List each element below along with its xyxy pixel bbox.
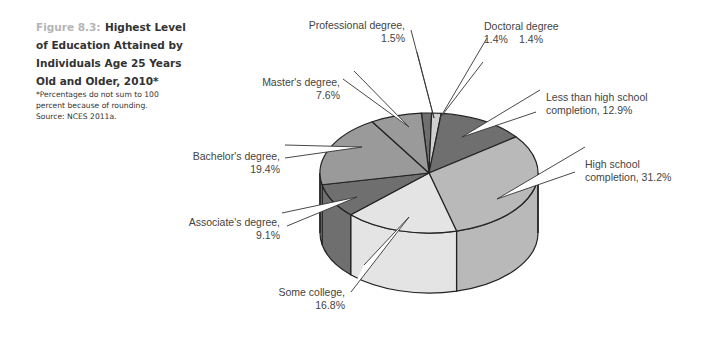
callout-pointer-1 <box>440 38 487 118</box>
label-doctoral-name: Doctoral degree <box>484 20 559 32</box>
label-bachelors-name: Bachelor's degree, <box>193 150 280 162</box>
callout-pointer-0 <box>411 30 434 118</box>
label-masters-value: 7.6% <box>316 89 340 101</box>
label-masters-name: Master's degree, <box>262 76 340 88</box>
label-doctoral-pct-name: 1.4% <box>519 33 543 45</box>
label-professional-name: Professional degree, <box>309 19 405 31</box>
label-associates-value: 9.1% <box>256 229 280 241</box>
label-some-college-name: Some college, <box>278 286 345 298</box>
label-doctoral-value: 1.4% <box>484 33 508 45</box>
label-bachelors-value: 19.4% <box>250 163 280 175</box>
label-high-school-name: High school <box>585 158 640 170</box>
label-less-hs-name: Less than high school <box>546 91 648 103</box>
callout-pointer-7 <box>343 71 409 127</box>
label-associates-name: Associate's degree, <box>189 216 280 228</box>
label-less-hs-value: completion, 12.9% <box>546 104 632 116</box>
label-professional-value: 1.5% <box>381 32 405 44</box>
pie-chart: Professional degree,1.5%Doctoral degree1… <box>0 0 706 339</box>
label-high-school-value: completion, 31.2% <box>585 171 671 183</box>
label-some-college-value: 16.8% <box>315 299 345 311</box>
